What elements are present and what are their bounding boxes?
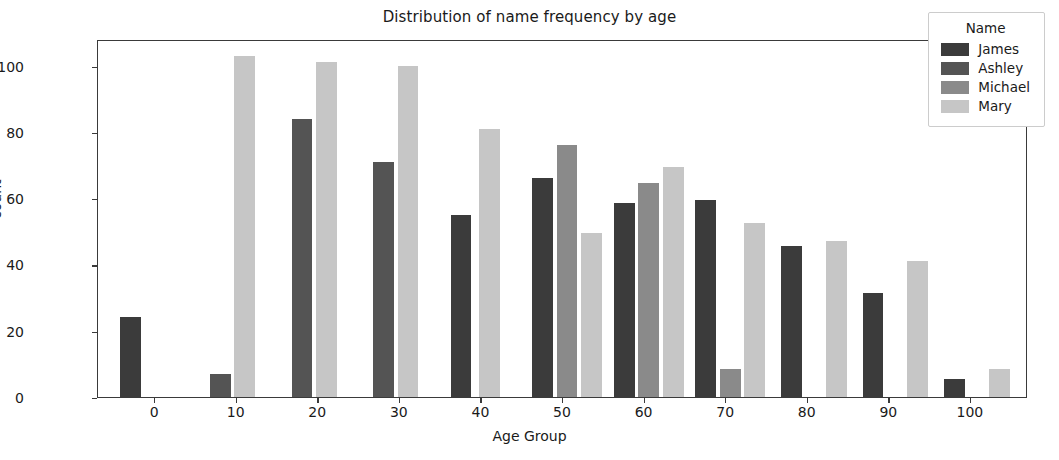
bar-james-age-60 xyxy=(614,203,635,397)
bar-michael-age-70 xyxy=(720,369,741,397)
x-tick-label: 80 xyxy=(777,404,837,420)
x-tick-label: 90 xyxy=(858,404,918,420)
y-tick-mark xyxy=(92,332,97,333)
y-tick-mark xyxy=(92,199,97,200)
x-tick-mark xyxy=(236,398,237,403)
bar-mary-age-60 xyxy=(663,167,684,397)
bar-mary-age-100 xyxy=(989,369,1010,397)
legend-label: Michael xyxy=(978,79,1030,95)
y-tick-label: 40 xyxy=(0,257,24,273)
bar-james-age-0 xyxy=(120,317,141,397)
x-tick-label: 0 xyxy=(124,404,184,420)
legend-rows: JamesAshleyMichaelMary xyxy=(941,41,1030,114)
bar-mary-age-20 xyxy=(316,62,337,397)
x-tick-mark xyxy=(480,398,481,403)
bar-james-age-80 xyxy=(781,246,802,397)
x-tick-mark xyxy=(888,398,889,403)
x-tick-mark xyxy=(725,398,726,403)
x-tick-label: 50 xyxy=(532,404,592,420)
x-tick-mark xyxy=(644,398,645,403)
legend-item-mary[interactable]: Mary xyxy=(941,98,1030,114)
legend: Name JamesAshleyMichaelMary xyxy=(928,12,1045,127)
x-tick-label: 100 xyxy=(940,404,1000,420)
bar-mary-age-80 xyxy=(826,241,847,397)
y-tick-label: 60 xyxy=(0,191,24,207)
bar-mary-age-50 xyxy=(581,233,602,397)
bar-ashley-age-30 xyxy=(373,162,394,397)
legend-label: Ashley xyxy=(978,60,1023,76)
x-tick-mark xyxy=(317,398,318,403)
bar-mary-age-70 xyxy=(744,223,765,397)
bars-layer xyxy=(98,41,1026,397)
y-tick-label: 0 xyxy=(0,390,24,406)
bar-james-age-100 xyxy=(944,379,965,397)
x-tick-label: 60 xyxy=(614,404,674,420)
bar-james-age-70 xyxy=(695,200,716,397)
x-tick-label: 30 xyxy=(369,404,429,420)
y-tick-mark xyxy=(92,265,97,266)
legend-item-james[interactable]: James xyxy=(941,41,1030,57)
legend-swatch-icon xyxy=(941,62,969,75)
x-tick-mark xyxy=(562,398,563,403)
legend-swatch-icon xyxy=(941,81,969,94)
legend-swatch-icon xyxy=(941,100,969,113)
x-tick-mark xyxy=(154,398,155,403)
bar-james-age-40 xyxy=(451,215,472,397)
x-axis-label: Age Group xyxy=(0,428,1059,444)
x-tick-mark xyxy=(970,398,971,403)
y-tick-mark xyxy=(92,398,97,399)
y-tick-label: 20 xyxy=(0,324,24,340)
bar-ashley-age-20 xyxy=(292,119,313,397)
bar-michael-age-50 xyxy=(557,145,578,397)
legend-item-michael[interactable]: Michael xyxy=(941,79,1030,95)
y-tick-mark xyxy=(92,133,97,134)
legend-item-ashley[interactable]: Ashley xyxy=(941,60,1030,76)
legend-label: Mary xyxy=(978,98,1011,114)
x-tick-label: 40 xyxy=(450,404,510,420)
bar-mary-age-10 xyxy=(234,56,255,397)
bar-ashley-age-10 xyxy=(210,374,231,397)
bar-mary-age-90 xyxy=(907,261,928,397)
y-tick-mark xyxy=(92,67,97,68)
x-tick-label: 20 xyxy=(287,404,347,420)
y-tick-label: 100 xyxy=(0,59,24,75)
chart-figure: Distribution of name frequency by age co… xyxy=(0,0,1059,460)
x-tick-mark xyxy=(807,398,808,403)
x-tick-mark xyxy=(399,398,400,403)
legend-label: James xyxy=(978,41,1019,57)
y-tick-label: 80 xyxy=(0,125,24,141)
bar-mary-age-40 xyxy=(479,129,500,398)
plot-area xyxy=(97,40,1027,398)
legend-swatch-icon xyxy=(941,43,969,56)
bar-james-age-50 xyxy=(532,178,553,397)
bar-michael-age-60 xyxy=(638,183,659,397)
x-tick-label: 70 xyxy=(695,404,755,420)
legend-title: Name xyxy=(941,20,1030,36)
bar-james-age-90 xyxy=(863,293,884,397)
bar-mary-age-30 xyxy=(398,66,419,397)
x-tick-label: 10 xyxy=(206,404,266,420)
chart-title: Distribution of name frequency by age xyxy=(0,8,1059,26)
